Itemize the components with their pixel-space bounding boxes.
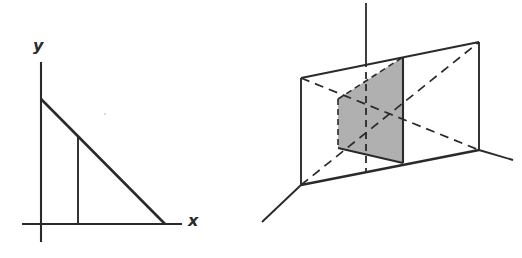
axis-ray-lower-left bbox=[262, 185, 301, 222]
triangle-hypotenuse bbox=[41, 99, 165, 224]
figure-root: y x bbox=[0, 0, 522, 258]
scan-speck bbox=[104, 113, 106, 115]
right-panel-drawing bbox=[261, 0, 522, 258]
y-axis-label: y bbox=[33, 38, 43, 54]
x-axis-label: x bbox=[188, 213, 198, 229]
axis-ray-right bbox=[479, 150, 513, 160]
left-panel: y x bbox=[0, 0, 261, 258]
right-panel bbox=[261, 0, 522, 258]
